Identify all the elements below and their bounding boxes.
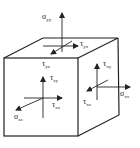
tau-zy-label: τzy: [50, 73, 58, 83]
sigma-xx-label: σxx: [120, 89, 130, 99]
front-face: [4, 58, 78, 136]
sigma-zz-arrow: [16, 98, 43, 110]
tau-yz-label: τyz: [42, 59, 51, 69]
sigma-zz-label: σzz: [14, 112, 24, 122]
tau-yx-label: τyx: [80, 39, 89, 49]
front-face-stresses: [16, 77, 62, 118]
tau-xy-label: τxy: [103, 59, 112, 69]
tau-zx-label: τzx: [52, 100, 60, 110]
tau-yz-arrow: [51, 41, 72, 54]
tau-xz-label: τxz: [83, 97, 92, 107]
stress-cube-diagram: σyy τyx τyz τzy τzx σzz τxy σxx τxz: [0, 0, 140, 148]
tau-xz-arrow: [87, 80, 108, 91]
sigma-yy-label: σyy: [42, 12, 52, 22]
